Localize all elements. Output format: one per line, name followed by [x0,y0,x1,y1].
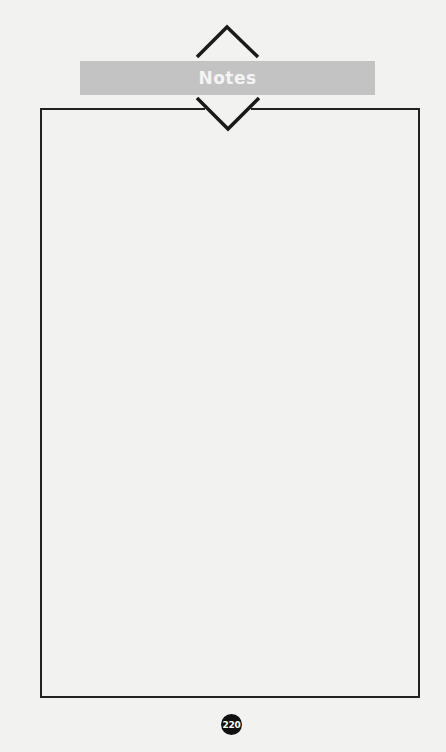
page-title: Notes [198,68,256,88]
notes-area[interactable] [40,108,420,698]
notes-page: Notes 220 [0,0,446,752]
header-banner: Notes [80,61,375,95]
page-number-badge: 220 [221,714,242,735]
